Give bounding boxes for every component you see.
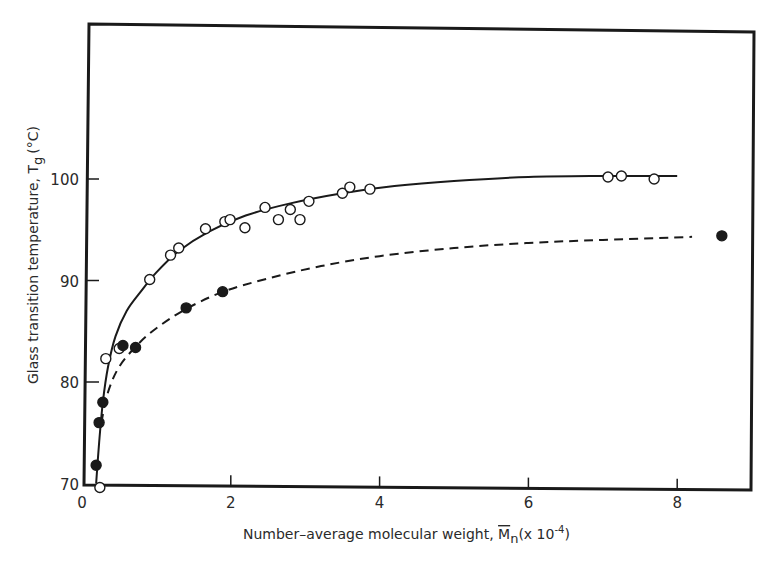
open-circle-marker bbox=[240, 223, 250, 233]
open-circle-marker bbox=[273, 215, 283, 225]
data-points bbox=[91, 171, 727, 493]
open-circle-marker bbox=[603, 172, 613, 182]
open-circle-marker bbox=[101, 354, 111, 364]
y-axis-title: Glass transition temperature, Tg(°C) bbox=[25, 126, 45, 384]
y-tick-label: 90 bbox=[60, 273, 79, 291]
x-tick-label: 0 bbox=[77, 494, 87, 512]
open-circle-marker bbox=[145, 274, 155, 284]
solid-fit-curve bbox=[96, 176, 677, 484]
x-tick-label: 8 bbox=[672, 494, 682, 512]
open-circle-marker bbox=[166, 250, 176, 260]
y-tick-label: 100 bbox=[50, 171, 79, 189]
dashed-fit-curve bbox=[101, 237, 692, 423]
open-circle-marker bbox=[201, 224, 211, 234]
x-axis-title: Number–average molecular weight, Mn(x 10… bbox=[243, 524, 570, 546]
plot-frame bbox=[84, 24, 754, 490]
y-tick-label: 80 bbox=[60, 374, 79, 392]
open-circle-marker bbox=[365, 184, 375, 194]
x-tick-label: 6 bbox=[524, 494, 534, 512]
fit-curves bbox=[96, 176, 692, 484]
chart: 02468708090100 Number–average molecular … bbox=[0, 0, 777, 566]
plot-border bbox=[84, 24, 754, 490]
filled-circle-marker bbox=[94, 418, 104, 428]
open-circle-marker bbox=[260, 202, 270, 212]
open-circle-marker bbox=[95, 483, 105, 493]
open-circle-marker bbox=[295, 215, 305, 225]
axis-ticks: 02468708090100 bbox=[50, 171, 682, 512]
filled-circle-marker bbox=[91, 460, 101, 470]
open-circle-marker bbox=[304, 196, 314, 206]
open-circle-marker bbox=[345, 182, 355, 192]
open-circle-marker bbox=[285, 204, 295, 214]
open-circle-marker bbox=[649, 174, 659, 184]
x-tick-label: 4 bbox=[375, 494, 385, 512]
open-circle-marker bbox=[616, 171, 626, 181]
filled-circle-marker bbox=[118, 340, 128, 350]
open-circle-marker bbox=[174, 243, 184, 253]
y-tick-label: 70 bbox=[60, 476, 79, 494]
filled-circle-marker bbox=[218, 287, 228, 297]
filled-circle-marker bbox=[181, 303, 191, 313]
open-circle-marker bbox=[225, 215, 235, 225]
filled-circle-marker bbox=[98, 397, 108, 407]
filled-circle-marker bbox=[131, 342, 141, 352]
filled-circle-marker bbox=[717, 231, 727, 241]
x-tick-label: 2 bbox=[226, 494, 236, 512]
